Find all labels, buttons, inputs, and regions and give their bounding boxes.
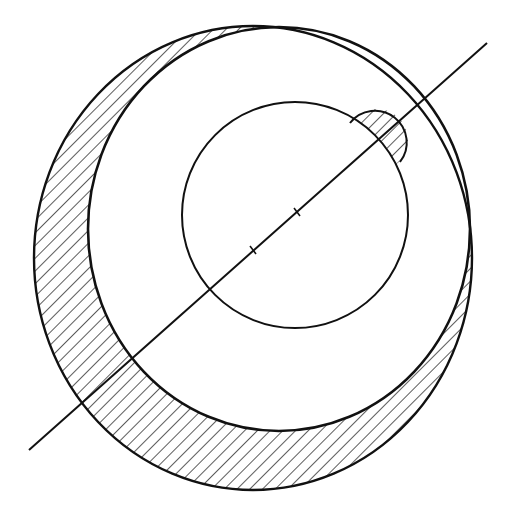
diagram-canvas	[0, 0, 509, 509]
hatched-bump	[0, 0, 509, 509]
